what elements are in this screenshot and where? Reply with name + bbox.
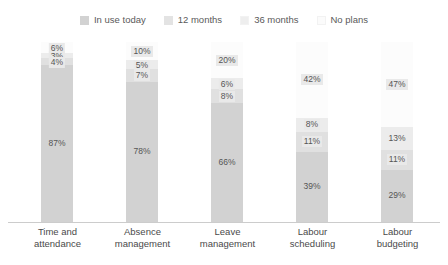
legend-item[interactable]: In use today (80, 15, 146, 25)
bar-segment[interactable]: 47% (381, 42, 413, 127)
legend-item[interactable]: No plans (317, 15, 369, 25)
segment-value-label: 8% (219, 91, 235, 102)
chart-legend: In use today12 months36 monthsNo plans (0, 12, 448, 28)
segment-value-label: 11% (387, 154, 407, 165)
category-label-line: Labour (270, 226, 355, 238)
segment-value-label: 29% (386, 190, 407, 201)
category-label: Labourscheduling (270, 226, 355, 250)
bar-segment[interactable]: 7% (126, 69, 158, 82)
legend-swatch-icon (317, 16, 326, 25)
stacked-bar[interactable]: 6%3%4%87% (41, 42, 73, 222)
bar-segment[interactable]: 66% (211, 103, 243, 222)
bar-segment[interactable]: 42% (296, 42, 328, 118)
x-axis-line (8, 222, 440, 223)
segment-value-label: 78% (131, 146, 152, 157)
segment-value-label: 13% (386, 133, 407, 144)
segment-value-label: 7% (134, 70, 150, 81)
segment-value-label: 6% (219, 79, 235, 90)
legend-swatch-icon (80, 16, 89, 25)
legend-item[interactable]: 12 months (164, 15, 222, 25)
category-label: Time andattendance (15, 226, 100, 250)
category-label-line: Absence (100, 226, 185, 238)
legend-swatch-icon (240, 16, 249, 25)
category-labels: Time andattendanceAbsencemanagementLeave… (0, 226, 448, 264)
category-label-line: Time and (15, 226, 100, 238)
stacked-bar[interactable]: 10%5%7%78% (126, 42, 158, 222)
bar-group: 6%3%4%87% (15, 36, 100, 222)
bar-segment[interactable]: 11% (296, 132, 328, 152)
bar-segment[interactable]: 10% (126, 42, 158, 60)
segment-value-label: 20% (216, 55, 237, 66)
segment-value-label: 4% (49, 57, 65, 68)
stacked-bar[interactable]: 47%13%11%29% (381, 42, 413, 222)
category-label-line: attendance (15, 238, 100, 250)
stacked-bar-chart: In use today12 months36 monthsNo plans 6… (0, 0, 448, 265)
legend-item-label: 36 months (254, 15, 298, 25)
bar-segment[interactable]: 6% (211, 78, 243, 89)
segment-value-label: 11% (302, 136, 322, 147)
bar-group: 42%8%11%39% (270, 36, 355, 222)
bar-group: 47%13%11%29% (355, 36, 440, 222)
segment-value-label: 87% (46, 138, 67, 149)
legend-swatch-icon (164, 16, 173, 25)
bar-group: 20%6%8%66% (185, 36, 270, 222)
bar-segment[interactable]: 39% (296, 152, 328, 222)
segment-value-label: 10% (131, 46, 152, 57)
category-label: Leavemanagement (185, 226, 270, 250)
legend-item-label: In use today (94, 15, 146, 25)
category-label-line: Labour (355, 226, 440, 238)
bar-segment[interactable]: 8% (211, 89, 243, 103)
bar-segment[interactable]: 78% (126, 82, 158, 222)
category-label: Absencemanagement (100, 226, 185, 250)
category-label-line: management (100, 238, 185, 250)
bar-group: 10%5%7%78% (100, 36, 185, 222)
stacked-bar[interactable]: 42%8%11%39% (296, 42, 328, 222)
bar-segment[interactable]: 8% (296, 118, 328, 132)
bar-segment[interactable]: 87% (41, 65, 73, 222)
category-label-line: scheduling (270, 238, 355, 250)
segment-value-label: 39% (301, 181, 322, 192)
segment-value-label: 66% (216, 157, 237, 168)
legend-item[interactable]: 36 months (240, 15, 298, 25)
legend-item-label: 12 months (178, 15, 222, 25)
stacked-bar[interactable]: 20%6%8%66% (211, 42, 243, 222)
segment-value-label: 8% (304, 119, 320, 130)
category-label: Labourbudgeting (355, 226, 440, 250)
bar-segment[interactable]: 5% (126, 60, 158, 69)
legend-item-label: No plans (331, 15, 369, 25)
category-label-line: Leave (185, 226, 270, 238)
bar-segment[interactable]: 11% (381, 150, 413, 170)
category-label-line: management (185, 238, 270, 250)
bar-segment[interactable]: 4% (41, 58, 73, 65)
bar-segment[interactable]: 20% (211, 42, 243, 78)
bar-segment[interactable]: 29% (381, 170, 413, 222)
segment-value-label: 47% (386, 79, 407, 90)
category-label-line: budgeting (355, 238, 440, 250)
bar-segment[interactable]: 13% (381, 127, 413, 150)
segment-value-label: 42% (301, 74, 322, 85)
plot-area: 6%3%4%87%10%5%7%78%20%6%8%66%42%8%11%39%… (0, 36, 448, 223)
